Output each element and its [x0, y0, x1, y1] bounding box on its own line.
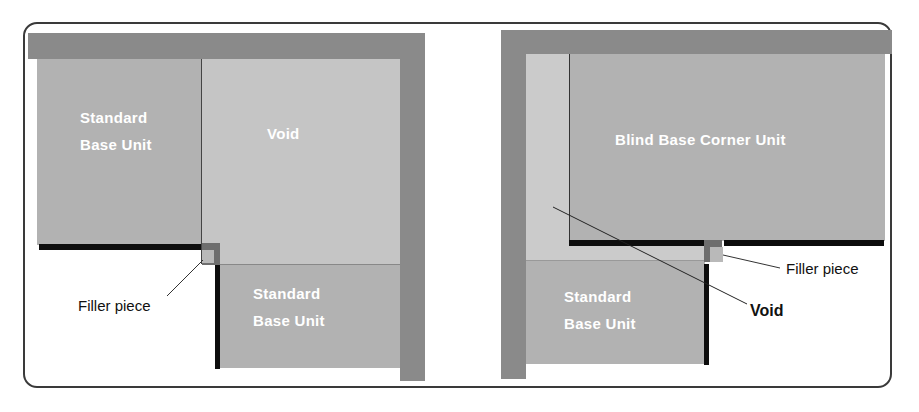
left-filler-leader	[167, 260, 203, 296]
right-void-leader	[553, 207, 747, 304]
right-filler-leader	[723, 255, 780, 268]
callout-leader-lines	[0, 0, 919, 412]
